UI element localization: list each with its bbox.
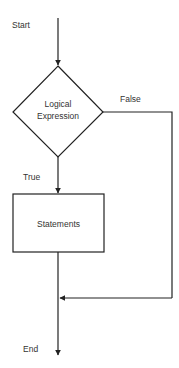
false-path: [103, 112, 172, 298]
flowchart-canvas: [0, 0, 179, 368]
start-label: Start: [12, 21, 30, 30]
end-label: End: [23, 345, 38, 354]
decision-label: Logical Expression: [18, 98, 98, 122]
decision-label-line1: Logical: [18, 98, 98, 110]
statements-label: Statements: [13, 218, 104, 230]
true-label: True: [23, 173, 40, 182]
false-label: False: [120, 95, 141, 104]
decision-label-line2: Expression: [18, 110, 98, 122]
